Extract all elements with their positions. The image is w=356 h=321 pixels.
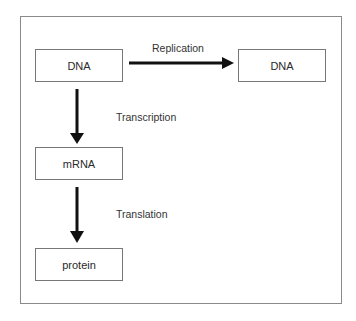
transcription-arrow	[70, 89, 84, 144]
dna-copy-node: DNA	[238, 49, 326, 82]
protein-node: protein	[35, 248, 123, 281]
dna-source-label: DNA	[67, 60, 90, 72]
dna-copy-label: DNA	[270, 60, 293, 72]
mrna-label: mRNA	[63, 158, 95, 170]
mrna-node: mRNA	[35, 147, 123, 180]
translation-arrow	[70, 187, 84, 243]
translation-label: Translation	[116, 208, 168, 220]
dna-source-node: DNA	[35, 49, 123, 82]
replication-arrow	[129, 57, 234, 69]
transcription-label: Transcription	[116, 111, 176, 123]
replication-label: Replication	[152, 42, 204, 54]
protein-label: protein	[62, 259, 96, 271]
